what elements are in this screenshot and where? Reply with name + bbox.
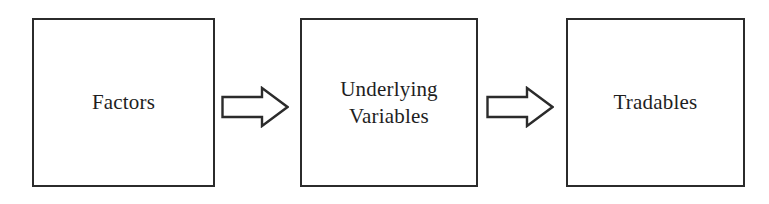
block-arrow-right-shape [221, 86, 289, 128]
diagram-node-underlying-variables[interactable]: Underlying Variables [300, 18, 478, 187]
diagram-node-label: Tradables [614, 89, 698, 116]
block-arrow-right-icon [221, 86, 289, 128]
diagram-node-tradables[interactable]: Tradables [566, 18, 745, 187]
diagram-canvas: Factors Underlying Variables Tradables [0, 0, 769, 204]
diagram-node-factors[interactable]: Factors [32, 18, 215, 187]
diagram-node-label: Underlying Variables [340, 76, 438, 130]
block-arrow-right-shape [486, 86, 554, 128]
block-arrow-right-icon [486, 86, 554, 128]
diagram-node-label: Factors [92, 89, 155, 116]
